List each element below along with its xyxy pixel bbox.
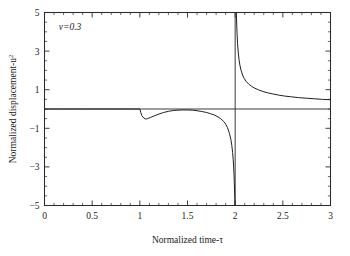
x-tick-label: 1 <box>137 211 142 221</box>
annotation-label: v=0.3 <box>59 22 82 32</box>
y-tick-label: −5 <box>29 201 39 211</box>
y-tick-label: −3 <box>29 162 39 172</box>
y-axis-tick-labels: −5−3−1135 <box>29 8 39 211</box>
x-axis-title: Normalized time-τ <box>152 235 223 245</box>
y-axis-title: Normalized displacement-u2 <box>7 55 18 164</box>
curve-right-branch <box>236 13 330 100</box>
x-tick-label: 1.5 <box>182 211 194 221</box>
y-axis-title-superscript: 2 <box>7 55 14 58</box>
y-tick-label: 1 <box>35 85 40 95</box>
plot-annotations: v=0.3 <box>59 22 82 32</box>
y-tick-label: 3 <box>35 47 40 57</box>
curve-left-branch <box>45 109 235 206</box>
y-tick-label: −1 <box>29 124 39 134</box>
plot-area <box>45 13 331 206</box>
x-tick-label: 2.5 <box>277 211 289 221</box>
x-tick-label: 2 <box>233 211 238 221</box>
figure-container: 00.511.522.53 −5−3−1135 v=0.3 Normalized… <box>0 0 350 256</box>
x-tick-label: 0 <box>42 211 47 221</box>
chart-svg: 00.511.522.53 −5−3−1135 v=0.3 Normalized… <box>0 0 350 256</box>
y-tick-label: 5 <box>35 8 40 18</box>
x-axis-tick-labels: 00.511.522.53 <box>42 211 333 221</box>
svg-text:Normalized displacement-u2: Normalized displacement-u2 <box>7 55 18 164</box>
x-tick-label: 3 <box>328 211 333 221</box>
x-tick-label: 0.5 <box>86 211 98 221</box>
y-axis-title-text: Normalized displacement-u <box>8 58 18 164</box>
